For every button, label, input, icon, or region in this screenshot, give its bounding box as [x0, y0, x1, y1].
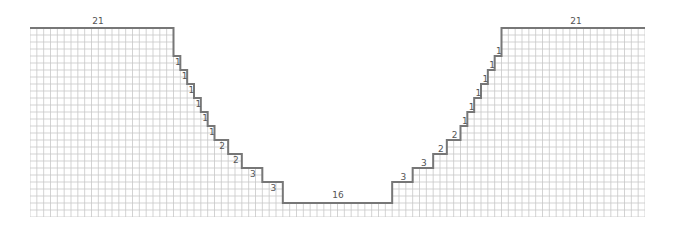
left-step-label: 3 — [271, 183, 277, 193]
top-right-label: 21 — [570, 16, 581, 26]
left-step-label: 3 — [250, 169, 256, 179]
top-left-label: 21 — [92, 16, 103, 26]
left-step-label: 1 — [202, 113, 208, 123]
right-step-label: 1 — [489, 60, 495, 70]
right-step-label: 2 — [438, 144, 444, 154]
right-step-label: 1 — [476, 88, 482, 98]
bottom-label: 16 — [332, 190, 344, 200]
left-step-label: 1 — [175, 57, 181, 67]
right-step-label: 1 — [496, 46, 502, 56]
grid — [30, 28, 645, 217]
right-step-label: 1 — [482, 74, 488, 84]
right-step-label: 3 — [421, 158, 427, 168]
right-step-label: 2 — [452, 130, 458, 140]
left-step-label: 1 — [189, 85, 195, 95]
right-step-label: 3 — [400, 172, 406, 182]
right-step-label: 1 — [462, 116, 468, 126]
left-step-label: 2 — [219, 141, 225, 151]
step-profile-diagram: 21 21 16 11111122333322111111 — [0, 0, 675, 228]
left-step-label: 2 — [233, 155, 239, 165]
profile-outline — [30, 28, 645, 203]
left-step-label: 1 — [209, 127, 215, 137]
left-step-label: 1 — [182, 71, 188, 81]
right-step-label: 1 — [469, 102, 475, 112]
left-step-label: 1 — [195, 99, 201, 109]
